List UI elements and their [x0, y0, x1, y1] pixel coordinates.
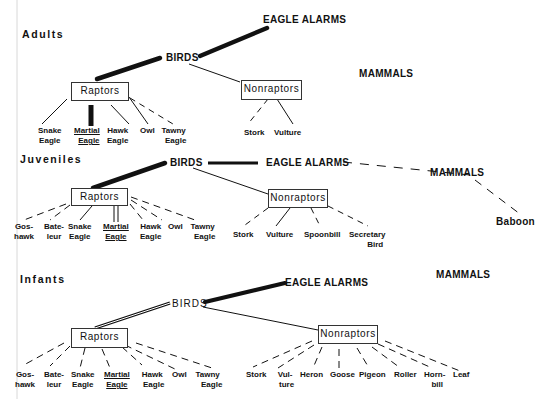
leaf-owl: Owl — [140, 126, 155, 136]
eagle-alarms-label: EAGLE ALARMS — [266, 158, 349, 168]
leaf-tawny-eagle: TawnyEagle — [161, 126, 186, 146]
nonraptors-node: Nonraptors — [318, 325, 378, 344]
eagle-alarm-diagram: Adults EAGLE ALARMS BIRDS MAMMALS Raptor… — [0, 0, 546, 399]
eagle-alarms-label: EAGLE ALARMS — [263, 15, 346, 25]
raptors-node: Raptors — [71, 82, 129, 101]
leaf-owl: Owl — [168, 222, 183, 232]
birds-label: BIRDS — [170, 158, 203, 168]
leaf-snake-eagle: SnakeEagle — [38, 126, 62, 146]
leaf-hawk-eagle: HawkEagle — [107, 126, 128, 146]
leaf-stork: Stork — [246, 370, 266, 380]
leaf-snake-eagle: SnakeEagle — [71, 370, 95, 390]
nonraptors-node: Nonraptors — [268, 189, 328, 208]
leaf-bateleur: Bate-leur — [44, 222, 64, 242]
leaf-martial-eagle: MartialEagle — [74, 126, 100, 146]
leaf-goose: Goose — [330, 370, 355, 380]
leaf-snake-eagle: SnakeEagle — [68, 222, 92, 242]
raptors-node: Raptors — [71, 328, 128, 348]
leaf-goshawk: Gos-hawk — [14, 222, 34, 242]
leaf-leaf: Leaf — [453, 370, 469, 380]
leaf-vulture: Vul-ture — [276, 370, 294, 390]
leaf-secretary-bird: SecretaryBird — [349, 230, 385, 250]
leaf-tawny-eagle: TawnyEagle — [190, 222, 215, 242]
leaf-pigeon: Pigeon — [359, 370, 386, 380]
mammals-label: MAMMALS — [436, 270, 490, 280]
leaf-hawk-eagle: HawkEagle — [140, 222, 161, 242]
leaf-heron: Heron — [300, 370, 323, 380]
section-label-infants: Infants — [20, 274, 66, 285]
leaf-spoonbill: Spoonbill — [304, 230, 340, 240]
leaf-bateleur: Bate-leur — [44, 370, 64, 390]
raptors-node: Raptors — [71, 188, 128, 206]
leaf-martial-eagle: MartialEagle — [104, 370, 130, 390]
eagle-alarms-label: EAGLE ALARMS — [285, 278, 368, 288]
leaf-goshawk: Gos-hawk — [15, 370, 35, 390]
birds-label: BIRDS — [166, 53, 199, 63]
section-label-adults: Adults — [22, 29, 64, 40]
birds-label: BIRDS — [172, 299, 208, 309]
leaf-stork: Stork — [233, 230, 253, 240]
mammals-label: MAMMALS — [430, 168, 484, 178]
leaf-hawk-eagle: HawkEagle — [140, 370, 164, 390]
leaf-vulture: Vulture — [274, 128, 301, 138]
section-label-juveniles: Juveniles — [20, 154, 82, 165]
mammals-label: MAMMALS — [359, 69, 413, 79]
leaf-roller: Roller — [394, 370, 417, 380]
leaf-owl: Owl — [172, 370, 187, 380]
leaf-tawny-eagle: TawnyEagle — [193, 370, 222, 390]
leaf-hornbill: Horn-bill — [424, 370, 445, 390]
leaf-stork: Stork — [244, 128, 264, 138]
leaf-baboon: Baboon — [496, 217, 535, 227]
leaf-vulture: Vulture — [266, 230, 293, 240]
nonraptors-node: Nonraptors — [241, 80, 302, 100]
leaf-martial-eagle: MartialEagle — [103, 222, 129, 242]
